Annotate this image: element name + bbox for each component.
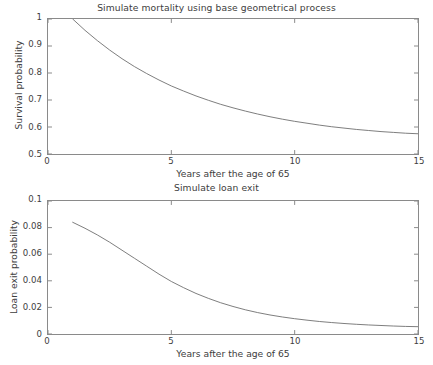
x-tick-label: 15 xyxy=(414,157,425,166)
y-tick-label: 1 xyxy=(37,13,42,22)
chart-panel-loan: Simulate loan exit 00.020.040.060.080.1 … xyxy=(0,178,433,365)
series-line-mortality xyxy=(48,19,418,154)
plot-area-loan xyxy=(47,200,419,335)
y-tick-label: 0.7 xyxy=(28,95,42,104)
y-tick-label: 0.9 xyxy=(28,40,42,49)
y-tick-label: 0.02 xyxy=(23,303,42,312)
chart-title-loan: Simulate loan exit xyxy=(0,182,433,193)
x-tick-label: 5 xyxy=(168,157,173,166)
y-tick-label: 0 xyxy=(37,330,42,339)
x-tick-label: 15 xyxy=(414,337,425,346)
y-axis-ticks-loan: 00.020.040.060.080.1 xyxy=(0,200,42,335)
y-tick-label: 0.8 xyxy=(28,68,42,77)
y-tick-label: 0.08 xyxy=(23,222,42,231)
y-axis-label-mortality: Survival probability xyxy=(13,17,25,154)
series-line-loan xyxy=(48,201,418,334)
x-tick-label: 0 xyxy=(44,157,49,166)
y-tick-label: 0.1 xyxy=(28,195,42,204)
x-axis-label-loan: Years after the age of 65 xyxy=(47,348,419,359)
y-tick-label: 0.04 xyxy=(23,276,42,285)
y-tick-label: 0.5 xyxy=(28,150,42,159)
x-tick-label: 10 xyxy=(290,157,301,166)
y-axis-label-loan: Loan exit probability xyxy=(8,200,20,335)
figure-canvas: Simulate mortality using base geometrica… xyxy=(0,0,433,365)
x-tick-label: 10 xyxy=(290,337,301,346)
y-tick-label: 0.06 xyxy=(23,249,42,258)
plot-area-mortality xyxy=(47,18,419,155)
x-tick-label: 0 xyxy=(44,337,49,346)
x-tick-label: 5 xyxy=(168,337,173,346)
y-tick-label: 0.6 xyxy=(28,123,42,132)
chart-panel-mortality: Simulate mortality using base geometrica… xyxy=(0,0,433,180)
chart-title-mortality: Simulate mortality using base geometrica… xyxy=(0,2,433,13)
